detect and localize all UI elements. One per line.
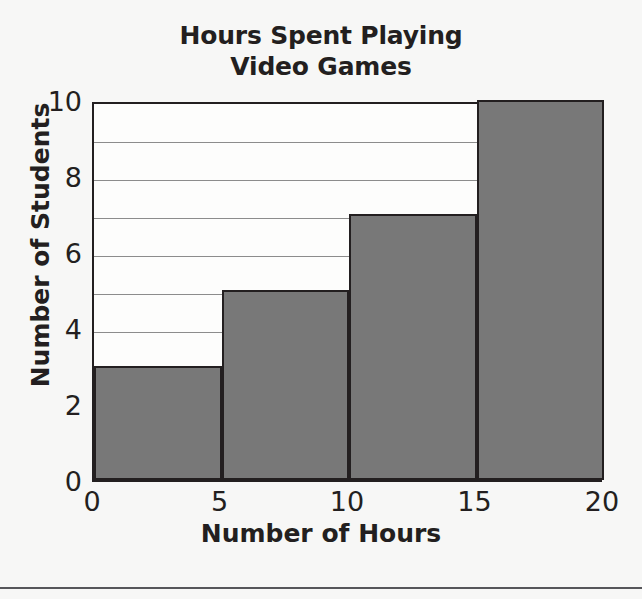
x-axis-title: Number of Hours — [0, 519, 642, 549]
x-axis-tick-label: 10 — [307, 488, 387, 515]
plot-area — [92, 102, 602, 482]
page-bottom-rule — [0, 587, 642, 589]
y-axis-tick-label: 2 — [22, 392, 82, 419]
y-axis-tick-label: 4 — [22, 316, 82, 343]
y-axis-tick-label: 10 — [22, 88, 82, 115]
x-axis-tick-label: 15 — [435, 488, 515, 515]
bar-series — [94, 104, 600, 480]
chart-title-line-2: Video Games — [0, 51, 642, 82]
chart-title-line-1: Hours Spent Playing — [0, 20, 642, 51]
bar — [349, 214, 477, 480]
histogram-figure: Hours Spent Playing Video Games Number o… — [0, 0, 642, 599]
x-axis-tick-label: 0 — [52, 488, 132, 515]
bar — [477, 100, 605, 480]
y-axis-tick-label: 8 — [22, 164, 82, 191]
x-axis-tick-label: 20 — [562, 488, 642, 515]
chart-title: Hours Spent Playing Video Games — [0, 20, 642, 82]
bar — [94, 366, 222, 480]
y-axis-tick-label: 6 — [22, 240, 82, 267]
bar — [222, 290, 350, 480]
x-axis-tick-label: 5 — [180, 488, 260, 515]
